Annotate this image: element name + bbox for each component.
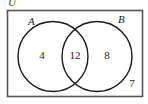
set-a-only-count: 4	[35, 50, 49, 61]
universal-set-label: U	[8, 0, 16, 8]
outside-sets-count: 7	[126, 78, 138, 89]
venn-diagram-figure: U A B 4 12 8 7	[0, 0, 148, 104]
set-a-label: A	[28, 16, 35, 27]
intersection-count: 12	[66, 50, 84, 61]
set-b-only-count: 8	[100, 50, 114, 61]
set-b-label: B	[118, 14, 125, 25]
